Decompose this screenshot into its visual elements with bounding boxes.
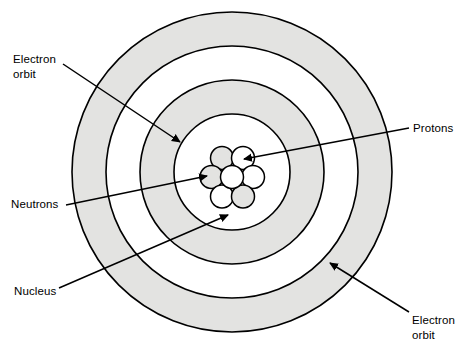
atom-diagram-svg	[0, 0, 469, 355]
label-neutrons: Neutrons	[11, 197, 58, 212]
label-electron-orbit-bottom: Electron orbit	[412, 313, 455, 342]
label-electron-orbit-top: Electron orbit	[13, 52, 56, 81]
nucleus-particle-center	[221, 166, 244, 189]
label-nucleus: Nucleus	[14, 284, 56, 299]
label-protons: Protons	[413, 121, 453, 136]
atom-diagram-canvas: Electron orbit Protons Neutrons Nucleus …	[0, 0, 469, 355]
